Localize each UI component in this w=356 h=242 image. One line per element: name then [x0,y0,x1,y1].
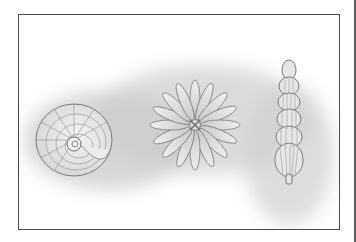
elongated-chambered-shell [275,60,303,184]
illustration-frame [18,14,340,230]
illustration-canvas [19,15,339,229]
coiled-shell [36,104,112,176]
star-shaped-shell [150,80,240,170]
